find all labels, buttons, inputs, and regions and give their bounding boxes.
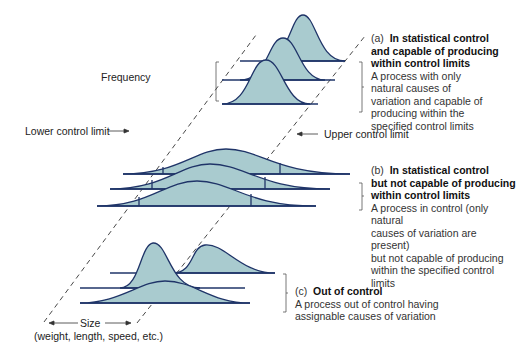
size-label: Size [80,317,100,330]
panel-a-bracket [359,62,364,112]
panel-c-text: (c) Out of control A process out of cont… [295,285,439,323]
frequency-bracket [216,62,219,101]
panel-b-title: (b) In statistical control [371,164,517,177]
panel-c-bracket [283,274,288,312]
lower-limit-arrow [108,129,129,133]
lower-control-limit-label: Lower control limit [25,125,110,138]
panel-b-text: (b) In statistical control but not capab… [371,164,517,289]
panel-a-text: (a) In statistical control and capable o… [371,32,499,132]
frequency-label: Frequency [101,71,151,84]
panel-a-title: (a) In statistical control [371,32,499,45]
panel-b-bracket [359,183,364,210]
group-a-distributions [222,15,345,104]
group-c-distributions [80,243,275,303]
group-b-distributions [97,149,350,206]
upper-limit-arrow [297,132,318,136]
size-detail-label: (weight, length, speed, etc.) [34,330,163,343]
panel-c-title: (c) Out of control [295,285,439,298]
